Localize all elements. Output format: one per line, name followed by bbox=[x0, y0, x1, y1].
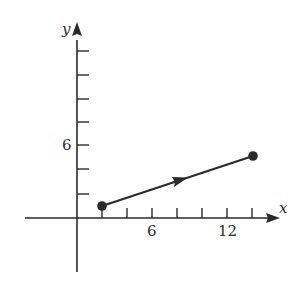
y-axis-label: y bbox=[61, 20, 71, 38]
end-point bbox=[248, 151, 258, 161]
start-point bbox=[97, 201, 107, 211]
x-axis: 6 12 x bbox=[25, 199, 288, 240]
y-axis-arrow-icon bbox=[72, 22, 82, 36]
x-ticks bbox=[102, 208, 252, 218]
x-axis-arrow-icon bbox=[266, 213, 280, 223]
chart-canvas: 6 12 x 6 y bbox=[0, 0, 300, 283]
x-axis-label: x bbox=[279, 199, 288, 217]
directed-segment bbox=[97, 151, 258, 211]
x-tick-label-6: 6 bbox=[147, 222, 157, 240]
y-ticks bbox=[77, 51, 89, 194]
y-tick-label-6: 6 bbox=[62, 136, 72, 154]
y-axis: 6 y bbox=[61, 20, 89, 272]
x-tick-label-12: 12 bbox=[218, 222, 237, 240]
